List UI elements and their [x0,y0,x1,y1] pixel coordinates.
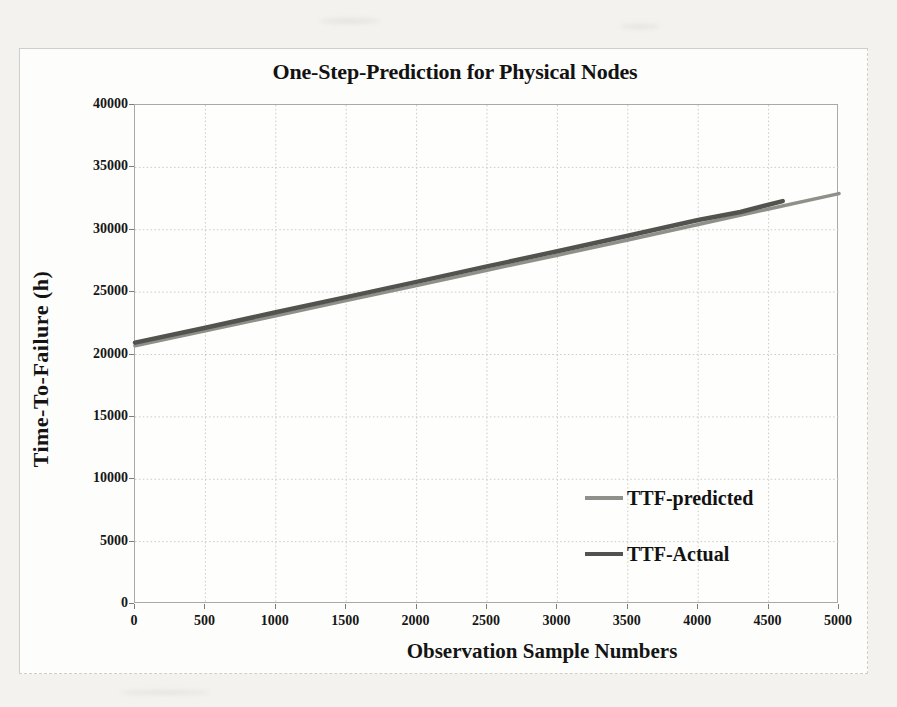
x-tick-mark [416,604,417,609]
x-tick-mark [275,604,276,609]
chart-figure: One-Step-Prediction for Physical Nodes T… [19,48,868,674]
x-axis-title: Observation Sample Numbers [190,639,894,664]
y-tick-label: 15000 [28,408,128,424]
scan-smudge [620,24,660,29]
scan-smudge [120,690,210,695]
x-tick-label: 0 [104,613,164,629]
y-tick-mark [129,291,134,292]
y-tick-label: 5000 [28,533,128,549]
y-tick-mark [129,166,134,167]
y-tick-label: 10000 [28,470,128,486]
x-tick-mark [768,604,769,609]
y-tick-mark [129,478,134,479]
legend-label-predicted: TTF-predicted [627,487,753,510]
x-tick-label: 500 [174,613,234,629]
x-tick-label: 1500 [315,613,375,629]
chart-canvas [135,105,839,604]
x-tick-label: 3000 [526,613,586,629]
y-tick-label: 25000 [28,283,128,299]
y-tick-mark [129,416,134,417]
x-tick-label: 3500 [597,613,657,629]
x-tick-label: 2000 [386,613,446,629]
x-tick-mark [627,604,628,609]
x-tick-mark [134,604,135,609]
actual-line-swatch [585,552,623,556]
legend-entry-predicted: TTF-predicted [585,485,753,511]
x-tick-mark [838,604,839,609]
x-tick-mark [204,604,205,609]
chart-title: One-Step-Prediction for Physical Nodes [105,59,805,85]
y-tick-label: 0 [28,595,128,611]
x-tick-mark [345,604,346,609]
x-tick-mark [486,604,487,609]
y-tick-mark [129,104,134,105]
legend-entry-actual: TTF-Actual [585,541,729,567]
y-tick-mark [129,541,134,542]
y-tick-mark [129,354,134,355]
y-tick-mark [129,229,134,230]
predicted-line-swatch [585,496,623,500]
x-tick-label: 4000 [667,613,727,629]
y-tick-label: 35000 [28,158,128,174]
y-tick-label: 40000 [28,96,128,112]
plot-area: TTF-predicted TTF-Actual [134,104,838,603]
x-tick-mark [697,604,698,609]
x-tick-mark [556,604,557,609]
x-tick-label: 4500 [738,613,798,629]
x-tick-label: 1000 [245,613,305,629]
x-tick-label: 5000 [808,613,868,629]
y-tick-label: 30000 [28,221,128,237]
scan-smudge [320,18,380,24]
legend-label-actual: TTF-Actual [627,543,729,566]
x-tick-label: 2500 [456,613,516,629]
y-tick-label: 20000 [28,346,128,362]
